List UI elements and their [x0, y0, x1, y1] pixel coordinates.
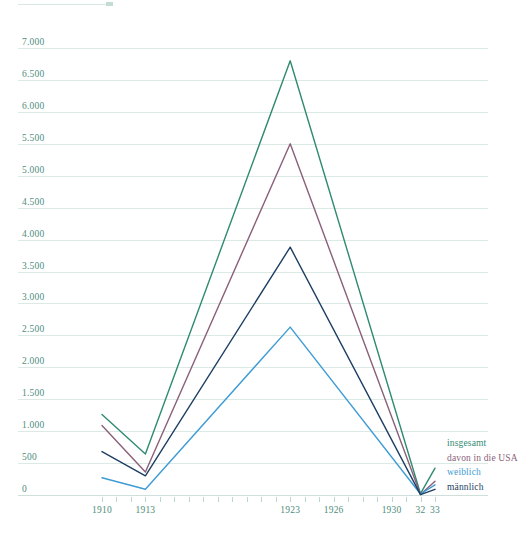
- legend-item-maennlich[interactable]: männlich: [447, 480, 518, 495]
- legend-label: insgesamt: [447, 438, 486, 448]
- legend-item-weiblich[interactable]: weiblich: [447, 465, 518, 480]
- legend-item-davon-in-die-usa[interactable]: davon in die USA: [447, 451, 518, 466]
- legend-item-insgesamt[interactable]: insgesamt: [447, 436, 518, 451]
- chart-legend: insgesamt davon in die USA weiblich männ…: [447, 436, 518, 494]
- legend-label: männlich: [447, 482, 484, 492]
- legend-label: weiblich: [447, 467, 481, 477]
- legend-label: davon in die USA: [447, 453, 518, 463]
- chart-canvas: 05001.0001.5002.0002.5003.0003.5004.0004…: [0, 0, 526, 533]
- series-line-weiblich: [102, 327, 435, 494]
- series-line-davon-in-die-usa: [102, 144, 435, 495]
